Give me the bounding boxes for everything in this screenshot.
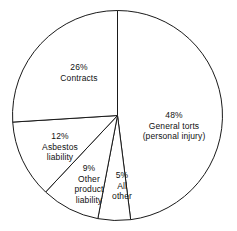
pie-slice-label-all-other: 5%Allother — [112, 170, 132, 202]
slice-percent-general-torts: 48% — [143, 110, 206, 121]
slice-name-line: other — [112, 191, 132, 202]
slice-percent-contracts: 26% — [60, 62, 97, 73]
slice-percent-all-other: 5% — [112, 170, 132, 181]
slice-name-line: (personal injury) — [143, 131, 206, 142]
slice-name-line: Other — [74, 174, 103, 185]
slice-name-line: General torts — [143, 121, 206, 132]
slice-percent-other-product-liability: 9% — [74, 163, 103, 174]
slice-name-line: Contracts — [60, 72, 97, 83]
slice-name-line: liability — [74, 195, 103, 206]
slice-percent-asbestos-liability: 12% — [42, 131, 78, 142]
pie-slice-label-asbestos-liability: 12%Asbestosliability — [42, 131, 78, 163]
slice-name-line: liability — [42, 152, 78, 163]
slice-name-line: product — [74, 184, 103, 195]
pie-slice-label-contracts: 26%Contracts — [60, 62, 97, 83]
slice-name-line: All — [112, 181, 132, 192]
pie-slice-label-general-torts: 48%General torts(personal injury) — [143, 110, 206, 142]
slice-name-line: Asbestos — [42, 142, 78, 153]
pie-slice-label-other-product-liability: 9%Otherproductliability — [74, 163, 103, 205]
pie-chart: 48%General torts(personal injury)5%Allot… — [0, 0, 237, 231]
